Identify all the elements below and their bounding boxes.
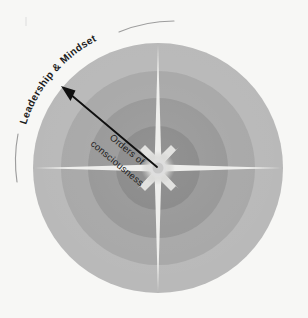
diagram-canvas: Leadership & Mindset Orders of conscious… [0, 0, 308, 318]
concentric-orders-diagram: Leadership & Mindset Orders of conscious… [0, 0, 308, 318]
